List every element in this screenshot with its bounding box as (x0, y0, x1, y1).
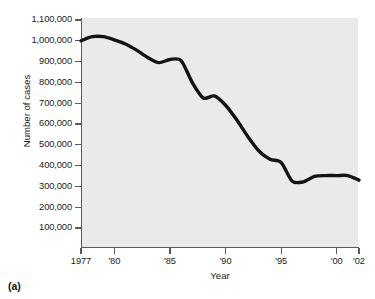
x-tick-mark (225, 248, 226, 254)
y-tick-label: 500,000 (0, 140, 72, 149)
x-tick-mark (169, 248, 170, 254)
x-tick-label: '90 (220, 256, 232, 266)
panel-caption: (a) (8, 280, 21, 292)
x-tick-label: '02 (353, 256, 365, 266)
x-tick-mark (80, 248, 81, 254)
figure-panel-a: 1,100,0001,000,000900,000800,000700,0006… (0, 0, 375, 299)
y-tick-label: 200,000 (0, 203, 72, 212)
y-tick-label: 1,100,000 (0, 15, 72, 24)
x-tick-label: '95 (275, 256, 287, 266)
y-axis-title: Number of cases (22, 56, 32, 166)
y-tick-label: 100,000 (0, 223, 72, 232)
y-tick-label: 700,000 (0, 99, 72, 108)
x-tick-label: 1977 (71, 256, 91, 266)
x-tick-label: '00 (331, 256, 343, 266)
y-tick-label: 900,000 (0, 57, 72, 66)
x-tick-mark (358, 248, 359, 254)
x-tick-mark (281, 248, 282, 254)
y-tick-label: 800,000 (0, 78, 72, 87)
x-tick-label: '85 (164, 256, 176, 266)
x-tick-mark (114, 248, 115, 254)
series-line-number-of-cases (81, 18, 358, 248)
x-tick-label: '80 (108, 256, 120, 266)
y-tick-label: 400,000 (0, 161, 72, 170)
y-tick-label: 600,000 (0, 119, 72, 128)
x-axis-title: Year (81, 271, 359, 281)
y-tick-label: 300,000 (0, 182, 72, 191)
y-tick-label: 1,000,000 (0, 36, 72, 45)
x-tick-mark (336, 248, 337, 254)
series-path (81, 36, 359, 183)
